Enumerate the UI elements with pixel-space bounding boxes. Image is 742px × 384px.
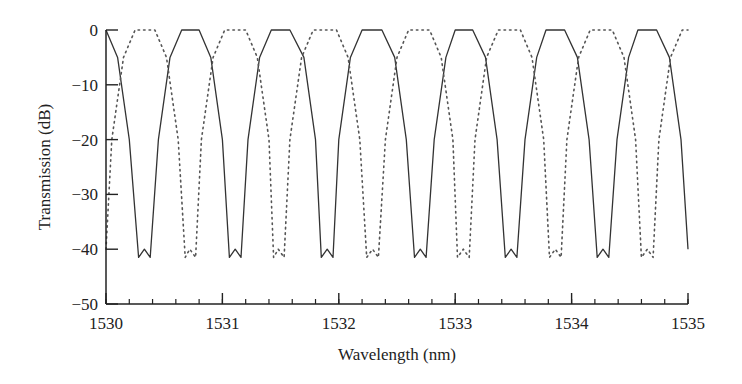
y-tick-label: −10 (71, 76, 98, 95)
y-tick-label: −30 (71, 185, 98, 204)
y-tick-label: −50 (71, 295, 98, 314)
x-axis: 153015311532153315341535 (89, 293, 705, 333)
x-tick-label: 1532 (322, 314, 356, 333)
x-tick-label: 1533 (438, 314, 472, 333)
y-axis-title: Transmission (dB) (35, 104, 54, 230)
transmission-chart: 153015311532153315341535 0−10−20−30−40−5… (0, 0, 742, 384)
series-dashed (106, 30, 688, 257)
y-tick-label: −40 (71, 240, 98, 259)
x-tick-label: 1534 (555, 314, 590, 333)
x-tick-label: 1535 (671, 314, 705, 333)
series-solid (106, 30, 688, 257)
x-tick-label: 1531 (205, 314, 239, 333)
plot-series (106, 30, 688, 257)
x-axis-title: Wavelength (nm) (338, 345, 456, 364)
x-tick-label: 1530 (89, 314, 123, 333)
y-tick-label: 0 (90, 21, 99, 40)
y-axis: 0−10−20−30−40−50 (71, 21, 118, 314)
y-tick-label: −20 (71, 131, 98, 150)
